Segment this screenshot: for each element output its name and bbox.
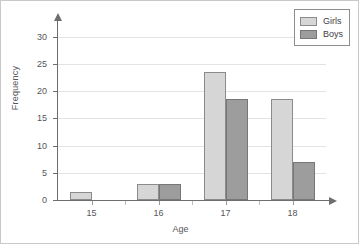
- bar-girls-age-16: [137, 184, 159, 200]
- legend-label-boys: Boys: [323, 30, 343, 39]
- bar-chart-figure: Frequency Age 051015202530 15161718 Girl…: [0, 0, 359, 244]
- x-axis-minor-tick: [125, 201, 126, 205]
- y-axis-tick-label: 0: [42, 196, 47, 205]
- bar-boys-age-17: [226, 99, 248, 200]
- y-axis-tick-label: 30: [37, 33, 47, 42]
- y-axis-tick: [53, 37, 58, 38]
- y-axis-tick: [53, 173, 58, 174]
- y-axis-arrow-icon: [54, 13, 62, 21]
- x-axis-title: Age: [1, 224, 359, 234]
- x-axis-line: [57, 200, 330, 201]
- legend-item-girls: Girls: [300, 15, 343, 27]
- gridline: [58, 64, 326, 65]
- y-axis-tick-label: 5: [42, 169, 47, 178]
- x-axis-minor-tick: [192, 201, 193, 205]
- x-axis-arrow-icon: [329, 197, 337, 205]
- bar-girls-age-18: [271, 99, 293, 200]
- x-axis-tick: [92, 201, 93, 205]
- gridline: [58, 37, 326, 38]
- y-axis-tick: [53, 118, 58, 119]
- legend-swatch-boys-icon: [300, 30, 317, 39]
- gridline: [58, 91, 326, 92]
- x-axis-tick-label: 18: [278, 208, 308, 218]
- legend-item-boys: Boys: [300, 28, 343, 40]
- x-axis-minor-tick: [259, 201, 260, 205]
- x-axis-tick: [226, 201, 227, 205]
- y-axis-tick: [53, 200, 58, 201]
- bar-boys-age-16: [159, 184, 181, 200]
- legend: Girls Boys: [294, 9, 350, 46]
- legend-label-girls: Girls: [323, 17, 342, 26]
- y-axis-title: Frequency: [10, 38, 20, 138]
- y-axis-tick-label: 10: [37, 142, 47, 151]
- y-axis-tick: [53, 91, 58, 92]
- bar-girls-age-15: [70, 192, 92, 200]
- bar-boys-age-18: [293, 162, 315, 200]
- bar-girls-age-17: [204, 72, 226, 200]
- y-axis-tick-label: 25: [37, 60, 47, 69]
- x-axis-tick-label: 15: [77, 208, 107, 218]
- y-axis-tick: [53, 146, 58, 147]
- y-axis-tick-label: 20: [37, 87, 47, 96]
- y-axis-tick-label: 15: [37, 114, 47, 123]
- plot-area: [58, 26, 326, 200]
- x-axis-tick: [159, 201, 160, 205]
- x-axis-tick: [293, 201, 294, 205]
- legend-swatch-girls-icon: [300, 17, 317, 26]
- y-axis-tick: [53, 64, 58, 65]
- x-axis-tick-label: 17: [211, 208, 241, 218]
- x-axis-tick-label: 16: [144, 208, 174, 218]
